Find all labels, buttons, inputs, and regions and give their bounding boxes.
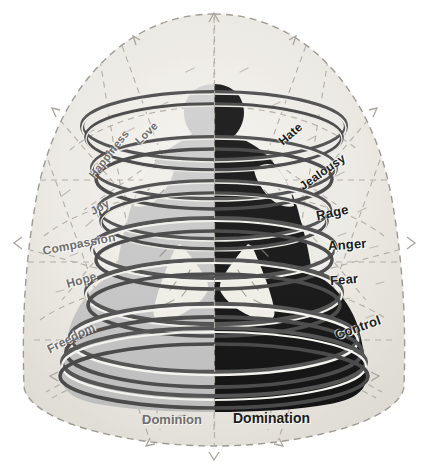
center-divider — [0, 0, 429, 468]
base-label-domination: Domination — [233, 410, 310, 426]
diagram-canvas: LoveHappinessJoyCompassionHopeFreedom Ha… — [0, 0, 429, 468]
base-label-dominion: Dominion — [142, 412, 202, 427]
